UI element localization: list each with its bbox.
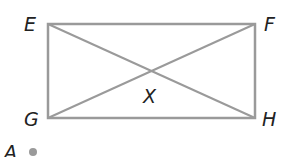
label-H: H xyxy=(262,108,276,130)
label-E: E xyxy=(24,13,36,35)
label-F: F xyxy=(264,13,276,35)
label-G: G xyxy=(24,108,39,130)
label-A: A xyxy=(2,141,17,157)
point-A-dot xyxy=(29,148,37,156)
geometry-diagram: E F X G H A xyxy=(0,0,291,157)
label-X: X xyxy=(142,85,157,107)
